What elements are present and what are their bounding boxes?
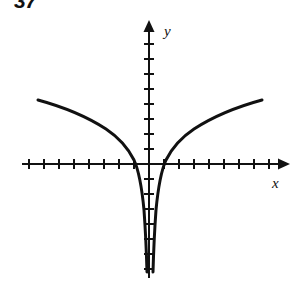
- x-axis-arrowhead: [278, 159, 290, 170]
- x-axis-label: x: [271, 175, 279, 191]
- figure-container: 37: [0, 0, 300, 288]
- curve-right-branch: [153, 100, 262, 272]
- y-axis-arrowhead: [144, 20, 155, 32]
- axes-group: [22, 20, 290, 278]
- curve-left-branch: [38, 100, 147, 272]
- graph-canvas: y x: [0, 0, 300, 288]
- y-axis-label: y: [162, 23, 171, 39]
